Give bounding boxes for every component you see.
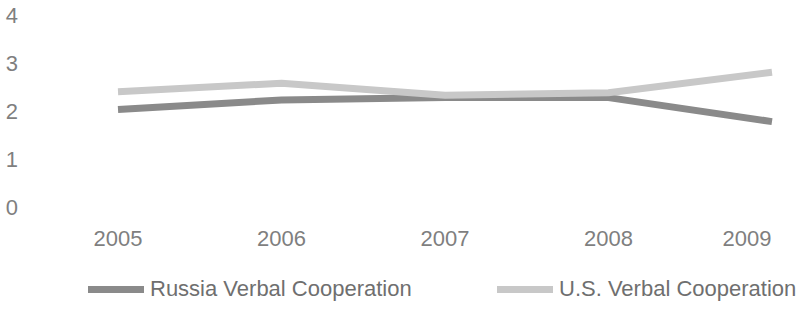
plot-area	[0, 0, 777, 225]
series-lines	[118, 72, 772, 121]
series-line-russia	[118, 98, 772, 122]
legend-label: U.S. Verbal Cooperation	[559, 276, 796, 302]
legend-label: Russia Verbal Cooperation	[150, 276, 412, 302]
x-axis-tick-label: 2009	[723, 226, 772, 252]
legend-entry[interactable]: U.S. Verbal Cooperation	[497, 276, 796, 302]
legend-color-swatch	[497, 286, 553, 293]
chart-legend: Russia Verbal CooperationU.S. Verbal Coo…	[0, 276, 777, 314]
series-line-us	[118, 72, 772, 95]
legend-entry[interactable]: Russia Verbal Cooperation	[88, 276, 412, 302]
x-axis-tick-label: 2007	[421, 226, 470, 252]
x-axis-tick-label: 2005	[94, 226, 143, 252]
legend-color-swatch	[88, 286, 144, 293]
x-axis-tick-label: 2008	[584, 226, 633, 252]
plot-svg	[0, 0, 777, 225]
x-axis: 20052006200720082009	[0, 226, 777, 266]
x-axis-tick-label: 2006	[257, 226, 306, 252]
